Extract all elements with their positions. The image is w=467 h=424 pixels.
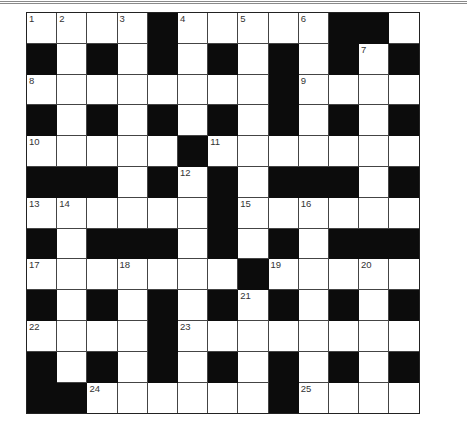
crossword-cell[interactable]: 12 [178, 167, 208, 198]
crossword-cell[interactable]: 25 [299, 383, 329, 414]
crossword-cell[interactable] [299, 290, 329, 321]
crossword-cell[interactable] [359, 167, 389, 198]
crossword-cell[interactable] [238, 167, 268, 198]
crossword-cell[interactable]: 17 [27, 259, 57, 290]
crossword-cell[interactable] [208, 321, 238, 352]
crossword-cell[interactable] [178, 290, 208, 321]
crossword-cell[interactable] [118, 198, 148, 229]
crossword-cell[interactable]: 14 [57, 198, 87, 229]
crossword-cell[interactable]: 11 [208, 136, 238, 167]
crossword-cell[interactable] [118, 44, 148, 75]
crossword-cell[interactable] [87, 13, 117, 44]
crossword-cell[interactable] [178, 44, 208, 75]
crossword-cell[interactable]: 8 [27, 75, 57, 106]
crossword-cell[interactable] [118, 167, 148, 198]
crossword-cell[interactable] [148, 259, 178, 290]
crossword-cell[interactable] [299, 44, 329, 75]
crossword-cell[interactable] [238, 383, 268, 414]
crossword-cell[interactable] [57, 321, 87, 352]
crossword-cell[interactable] [329, 383, 359, 414]
crossword-cell[interactable]: 18 [118, 259, 148, 290]
crossword-cell[interactable] [329, 198, 359, 229]
crossword-cell[interactable] [299, 352, 329, 383]
crossword-cell[interactable] [238, 75, 268, 106]
crossword-cell[interactable] [269, 321, 299, 352]
crossword-cell[interactable] [359, 75, 389, 106]
crossword-cell[interactable]: 10 [27, 136, 57, 167]
crossword-cell[interactable] [329, 75, 359, 106]
crossword-cell[interactable]: 19 [269, 259, 299, 290]
crossword-cell[interactable] [359, 136, 389, 167]
crossword-cell[interactable] [329, 136, 359, 167]
crossword-cell[interactable] [389, 321, 419, 352]
crossword-cell[interactable] [299, 259, 329, 290]
crossword-cell[interactable] [269, 136, 299, 167]
crossword-cell[interactable] [269, 198, 299, 229]
crossword-cell[interactable] [238, 229, 268, 260]
crossword-cell[interactable] [118, 383, 148, 414]
crossword-cell[interactable] [178, 383, 208, 414]
crossword-cell[interactable] [148, 136, 178, 167]
crossword-cell[interactable] [238, 352, 268, 383]
crossword-cell[interactable] [238, 44, 268, 75]
crossword-cell[interactable] [208, 383, 238, 414]
crossword-cell[interactable] [118, 136, 148, 167]
crossword-cell[interactable] [238, 321, 268, 352]
crossword-cell[interactable] [329, 259, 359, 290]
crossword-cell[interactable]: 1 [27, 13, 57, 44]
crossword-cell[interactable] [57, 44, 87, 75]
crossword-cell[interactable] [118, 321, 148, 352]
crossword-cell[interactable] [389, 136, 419, 167]
crossword-cell[interactable] [87, 321, 117, 352]
crossword-cell[interactable]: 9 [299, 75, 329, 106]
crossword-cell[interactable]: 20 [359, 259, 389, 290]
crossword-cell[interactable] [359, 198, 389, 229]
crossword-cell[interactable] [299, 136, 329, 167]
crossword-cell[interactable] [238, 136, 268, 167]
crossword-cell[interactable]: 16 [299, 198, 329, 229]
crossword-cell[interactable] [389, 259, 419, 290]
crossword-cell[interactable] [208, 259, 238, 290]
crossword-cell[interactable] [57, 259, 87, 290]
crossword-cell[interactable]: 5 [238, 13, 268, 44]
crossword-cell[interactable] [359, 290, 389, 321]
crossword-cell[interactable] [57, 105, 87, 136]
crossword-cell[interactable] [269, 13, 299, 44]
crossword-cell[interactable] [178, 229, 208, 260]
crossword-cell[interactable] [389, 75, 419, 106]
crossword-cell[interactable] [178, 198, 208, 229]
crossword-cell[interactable] [118, 105, 148, 136]
crossword-cell[interactable] [148, 383, 178, 414]
crossword-cell[interactable] [178, 259, 208, 290]
crossword-cell[interactable] [87, 198, 117, 229]
crossword-cell[interactable]: 3 [118, 13, 148, 44]
crossword-cell[interactable] [238, 105, 268, 136]
crossword-cell[interactable]: 23 [178, 321, 208, 352]
crossword-cell[interactable] [359, 383, 389, 414]
crossword-cell[interactable] [208, 13, 238, 44]
crossword-cell[interactable] [299, 229, 329, 260]
crossword-cell[interactable]: 24 [87, 383, 117, 414]
crossword-cell[interactable]: 22 [27, 321, 57, 352]
crossword-cell[interactable] [359, 105, 389, 136]
crossword-cell[interactable] [57, 229, 87, 260]
crossword-cell[interactable]: 2 [57, 13, 87, 44]
crossword-cell[interactable] [118, 352, 148, 383]
crossword-cell[interactable] [87, 136, 117, 167]
crossword-cell[interactable] [57, 136, 87, 167]
crossword-cell[interactable] [57, 352, 87, 383]
crossword-cell[interactable]: 21 [238, 290, 268, 321]
crossword-cell[interactable] [118, 290, 148, 321]
crossword-cell[interactable] [389, 383, 419, 414]
crossword-cell[interactable] [178, 105, 208, 136]
crossword-cell[interactable] [118, 75, 148, 106]
crossword-cell[interactable]: 7 [359, 44, 389, 75]
crossword-cell[interactable] [57, 75, 87, 106]
crossword-cell[interactable] [329, 321, 359, 352]
crossword-cell[interactable] [87, 259, 117, 290]
crossword-cell[interactable] [389, 13, 419, 44]
crossword-cell[interactable] [389, 198, 419, 229]
crossword-cell[interactable]: 6 [299, 13, 329, 44]
crossword-cell[interactable] [148, 198, 178, 229]
crossword-cell[interactable]: 4 [178, 13, 208, 44]
